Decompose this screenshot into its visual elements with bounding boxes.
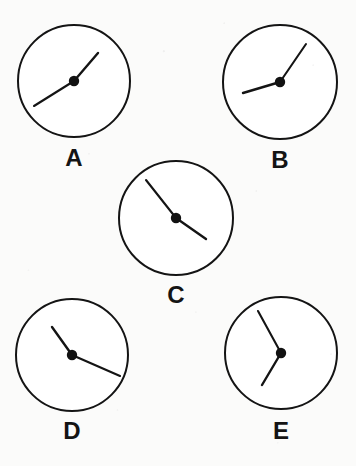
worksheet-page: ABCDE xyxy=(0,0,356,466)
clock-d-hub xyxy=(67,350,77,360)
clock-figure: ABCDE xyxy=(0,0,356,466)
clock-a-label: A xyxy=(65,144,82,171)
clock-c-label: C xyxy=(167,281,184,308)
clock-c-hub xyxy=(171,213,181,223)
clock-layer: ABCDE xyxy=(16,25,337,444)
clock-d[interactable]: D xyxy=(16,299,128,444)
clock-e-label: E xyxy=(273,417,289,444)
clock-a-hub xyxy=(69,76,79,86)
clock-e-hub xyxy=(276,348,286,358)
clock-b-hub xyxy=(275,77,285,87)
clock-d-label: D xyxy=(63,417,80,444)
clock-b-label: B xyxy=(271,146,288,173)
clock-c[interactable]: C xyxy=(119,161,233,308)
clock-b[interactable]: B xyxy=(223,25,337,173)
clock-e[interactable]: E xyxy=(225,297,337,444)
clock-a[interactable]: A xyxy=(18,25,130,171)
